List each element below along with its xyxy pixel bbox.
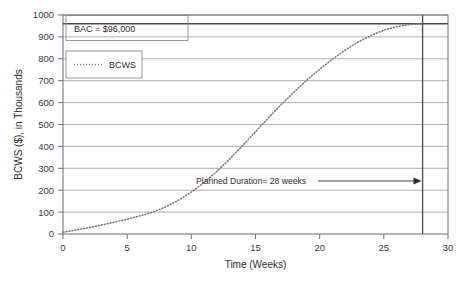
y-tick-label: 800 xyxy=(38,53,54,64)
y-tick-label: 0 xyxy=(49,228,54,239)
x-tick-label: 10 xyxy=(186,242,197,253)
legend-label-bcws: BCWS xyxy=(109,60,136,70)
y-tick-label: 500 xyxy=(38,119,54,130)
bac-annotation-label: BAC = $96,000 xyxy=(74,24,135,34)
x-tick-label: 30 xyxy=(443,242,454,253)
x-tick-label: 25 xyxy=(379,242,390,253)
y-axis-ticks xyxy=(58,15,63,234)
y-tick-label: 200 xyxy=(38,185,54,196)
planned-duration-label: Planned Duration= 28 weeks xyxy=(196,176,306,186)
y-tick-label: 600 xyxy=(38,97,54,108)
y-tick-label: 100 xyxy=(38,207,54,218)
y-tick-label: 700 xyxy=(38,75,54,86)
x-tick-label: 20 xyxy=(314,242,325,253)
x-axis-ticks xyxy=(63,234,448,239)
chart-canvas: 1000 900 800 700 600 500 400 300 200 100… xyxy=(0,0,472,281)
y-tick-label: 900 xyxy=(38,31,54,42)
x-tick-label: 15 xyxy=(250,242,261,253)
y-tick-label: 300 xyxy=(38,163,54,174)
y-tick-label: 400 xyxy=(38,141,54,152)
x-axis-title: Time (Weeks) xyxy=(225,259,287,270)
x-axis-tick-labels: 0 5 10 15 20 25 30 xyxy=(60,242,453,253)
bcws-chart: 1000 900 800 700 600 500 400 300 200 100… xyxy=(0,0,472,281)
x-tick-label: 5 xyxy=(125,242,130,253)
x-tick-label: 0 xyxy=(60,242,65,253)
y-axis-tick-labels: 1000 900 800 700 600 500 400 300 200 100… xyxy=(33,9,54,239)
y-axis-title: BCWS ($), in Thousands xyxy=(13,69,24,179)
y-tick-label: 1000 xyxy=(33,9,54,20)
